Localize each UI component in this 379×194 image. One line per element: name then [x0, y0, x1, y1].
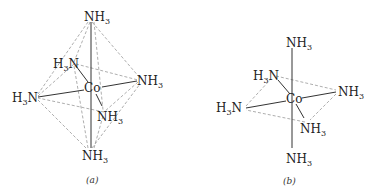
diagram-b: NH3 H3N Co NH3 H3N NH3 NH3 (b) [216, 36, 364, 186]
ligand-bottom-a: NH3 [82, 149, 108, 165]
ligand-bottom-b: NH3 [286, 152, 312, 168]
ligand-lower-right-b: NH3 [300, 122, 326, 138]
ligand-right-b: NH3 [338, 85, 364, 101]
ligand-top-b: NH3 [286, 36, 312, 52]
ligand-lower-right-a: NH3 [97, 110, 123, 126]
ligand-upper-left-a: H3N [53, 57, 79, 73]
center-atom-a: Co [84, 81, 100, 95]
ligand-right-a: NH3 [137, 74, 163, 90]
ligand-left-a: H3N [12, 91, 38, 107]
center-atom-b: Co [286, 92, 302, 106]
diagram-a: NH3 H3N Co NH3 H3N NH3 NH3 (a) [12, 10, 163, 185]
caption-a: (a) [86, 175, 99, 185]
ligand-upper-left-b: H3N [253, 69, 279, 85]
caption-b: (b) [283, 176, 296, 186]
coordination-diagrams: NH3 H3N Co NH3 H3N NH3 NH3 (a) NH3 H3N C… [0, 0, 379, 194]
ligand-top-a: NH3 [84, 10, 110, 26]
ligand-left-b: H3N [216, 101, 242, 117]
